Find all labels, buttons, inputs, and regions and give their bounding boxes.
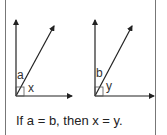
right-diagonal-ray [95,26,132,96]
caption: If a = b, then x = y. [16,113,123,128]
right-angle-figure [95,20,154,96]
angle-label-x: x [28,82,34,94]
angle-label-b: b [96,67,103,79]
angle-label-a: a [17,69,24,81]
angle-label-y: y [106,80,112,92]
left-diagonal-ray [16,26,54,96]
left-angle-figure [16,20,72,96]
